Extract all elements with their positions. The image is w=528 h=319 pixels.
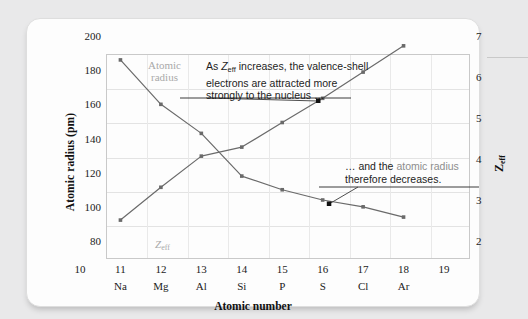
- callout-line-2: electrons are attracted more: [206, 77, 368, 90]
- x-tick-number: 14: [236, 263, 247, 275]
- data-point-marker: [240, 174, 244, 178]
- screenshot-root: 200 180 160 140 120 100 80 7 6 5 4 3 2 1…: [0, 0, 528, 319]
- callout-zeff-increase: As Zeff increases, the valence-shell ele…: [206, 60, 368, 102]
- series-label-atomic-radius: Atomic radius: [148, 59, 181, 83]
- data-point-marker: [402, 44, 406, 48]
- series-label-zeff-sub: eff: [161, 243, 170, 252]
- callout-line-3: strongly to the nucleus …: [206, 89, 368, 102]
- data-point-marker: [159, 185, 163, 189]
- data-point-marker: [200, 132, 204, 136]
- callout-radius-decrease: … and the atomic radius therefore decrea…: [345, 160, 459, 185]
- x-tick-symbol: Cl: [358, 280, 368, 292]
- callout-line-1: … and the atomic radius: [345, 160, 459, 173]
- callout-highlight-text: atomic radius: [396, 160, 458, 172]
- data-point-marker: [200, 154, 204, 158]
- data-point-marker: [321, 198, 325, 202]
- x-tick-number: 15: [277, 263, 288, 275]
- callout-text-b: increases, the valence-shell: [236, 60, 369, 72]
- x-tick-number: 11: [115, 263, 126, 275]
- x-tick-symbol: Si: [237, 280, 246, 292]
- data-point-marker: [402, 215, 406, 219]
- chart-card: 200 180 160 140 120 100 80 7 6 5 4 3 2 1…: [26, 18, 480, 307]
- y-right-tick: 2: [476, 235, 506, 247]
- x-tick-symbol: Al: [196, 280, 207, 292]
- data-point-marker: [280, 188, 284, 192]
- callout-zeff-subscript: eff: [228, 65, 236, 74]
- data-point-marker: [119, 218, 123, 222]
- callout-line-2: therefore decreases.: [345, 173, 459, 186]
- data-point-marker: [119, 58, 123, 62]
- x-tick-number: 10: [75, 263, 86, 275]
- x-tick-number: 16: [317, 263, 328, 275]
- x-tick-symbol: Mg: [153, 280, 168, 292]
- y-left-axis-title: Atomic radius (pm): [64, 67, 76, 257]
- data-point-marker: [240, 145, 244, 149]
- callout-target-marker: [327, 202, 332, 207]
- y-left-tick: 200: [27, 30, 101, 42]
- y-right-axis-title-sub: eff: [498, 155, 507, 164]
- y-right-axis-title: Zeff: [492, 129, 507, 199]
- data-point-marker: [361, 205, 365, 209]
- x-tick-symbol: Ar: [398, 280, 410, 292]
- x-tick-number: 13: [196, 263, 207, 275]
- x-axis-title: Atomic number: [27, 300, 479, 312]
- callout-line-1: As Zeff increases, the valence-shell: [206, 60, 368, 77]
- x-tick-symbol: Na: [114, 280, 127, 292]
- series-label-line-2: radius: [148, 71, 181, 83]
- y-right-tick: 5: [476, 112, 506, 124]
- y-right-tick: 7: [476, 30, 506, 42]
- x-tick-number: 19: [439, 263, 450, 275]
- x-tick-number: 17: [358, 263, 369, 275]
- y-right-axis-title-base: Z: [492, 164, 506, 172]
- data-point-marker: [280, 121, 284, 125]
- series-label-zeff: Zeff: [155, 238, 170, 254]
- callout-leader-line: [329, 187, 358, 204]
- page-edge-rule: [487, 57, 528, 58]
- callout-text-a: … and the: [345, 160, 396, 172]
- x-tick-symbol: S: [320, 280, 326, 292]
- x-tick-symbol: P: [279, 280, 285, 292]
- data-point-marker: [159, 103, 163, 107]
- callout-text-a: As: [206, 60, 221, 72]
- y-right-tick: 6: [476, 71, 506, 83]
- series-label-line-1: Atomic: [148, 59, 181, 71]
- x-tick-number: 18: [398, 263, 409, 275]
- x-tick-number: 12: [155, 263, 166, 275]
